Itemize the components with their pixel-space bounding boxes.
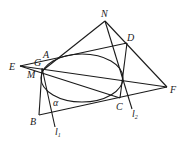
segment-N-M	[42, 21, 105, 71]
label-F: F	[169, 84, 177, 95]
segment-N-F	[105, 21, 167, 87]
label-l2: l2	[132, 108, 138, 120]
segment-B-M	[39, 69, 42, 115]
label-C: C	[116, 101, 123, 112]
label-B: B	[30, 116, 36, 127]
label-E: E	[8, 61, 15, 72]
label-l1: l1	[55, 126, 61, 138]
geometry-diagram: N D F E A G M B C α l1 l2	[0, 0, 185, 148]
label-D: D	[126, 32, 135, 43]
label-A: A	[42, 49, 50, 60]
label-G: G	[34, 57, 41, 68]
label-M: M	[26, 69, 36, 80]
label-alpha: α	[53, 97, 59, 108]
label-N: N	[100, 8, 109, 19]
